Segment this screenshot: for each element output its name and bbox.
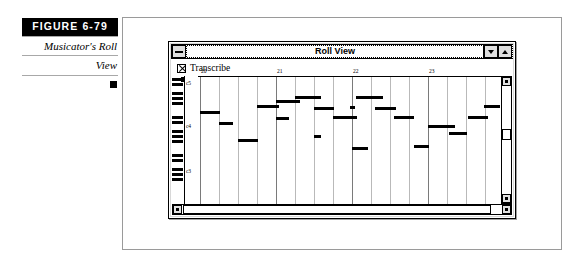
window-title-bar[interactable]: Roll View [171,44,513,59]
keyboard-position-marker [172,78,183,81]
arrow-right-icon [505,208,508,211]
measure-line [276,77,277,204]
maximize-button[interactable] [498,45,512,58]
note-bar[interactable] [414,145,429,148]
note-bar[interactable] [200,111,220,114]
note-bar[interactable] [219,122,233,125]
piano-keyboard-strip[interactable] [172,76,185,204]
measure-number-label: 21 [277,68,283,74]
beat-line [390,77,391,204]
vertical-scroll-thumb[interactable] [502,129,511,140]
note-bar[interactable] [428,125,455,128]
note-bar[interactable] [356,96,383,99]
beat-line [466,77,467,204]
octave-label: c4 [186,123,191,129]
piano-black-key[interactable] [172,135,183,138]
figure-frame: Roll View Transcribe 20212223 [122,17,562,250]
scroll-down-button[interactable] [502,194,511,203]
note-bar[interactable] [449,132,467,135]
note-bar[interactable] [314,135,321,138]
beat-line [219,77,220,204]
caption-line-2: View [22,56,118,75]
scroll-left-button[interactable] [173,205,182,214]
minimize-button[interactable] [484,45,498,58]
horizontal-scroll-thumb[interactable] [183,205,491,214]
beat-line [333,77,334,204]
piano-black-key[interactable] [172,130,183,133]
beat-line [409,77,410,204]
piano-black-key[interactable] [172,97,183,100]
measure-number-label: 22 [353,68,359,74]
note-bar[interactable] [295,96,321,99]
window-title: Roll View [187,46,483,57]
note-bar[interactable] [257,105,279,108]
transcribe-label: Transcribe [190,63,230,73]
piano-black-key[interactable] [172,102,183,105]
scroll-up-button[interactable] [502,77,511,86]
roll-view-window: Roll View Transcribe 20212223 [168,41,516,219]
piano-black-key[interactable] [172,121,183,124]
arrow-up-icon [505,80,508,83]
figure-caption-block: FIGURE 6-79 Musicator's Roll View [22,18,118,88]
x-checkbox-icon[interactable] [177,64,186,73]
measure-line [352,77,353,204]
note-bar[interactable] [394,116,414,119]
piano-black-key[interactable] [172,83,183,86]
octave-label: c3 [186,168,191,174]
measure-line [428,77,429,204]
piano-black-key[interactable] [172,173,183,176]
note-bar[interactable] [276,100,300,103]
note-bar[interactable] [333,116,357,119]
beat-line [447,77,448,204]
title-center-wrap: Roll View [186,46,484,57]
arrow-down-icon [505,197,508,200]
note-bar[interactable] [484,105,500,108]
piano-black-key[interactable] [172,178,183,181]
scroll-right-button[interactable] [502,205,511,214]
triangle-up-icon [502,50,508,54]
note-bar[interactable] [375,107,396,110]
measure-line [200,77,201,204]
piano-black-key[interactable] [172,154,183,157]
note-bar[interactable] [350,106,355,109]
note-bar[interactable] [314,107,334,110]
figure-number-tag: FIGURE 6-79 [22,18,118,36]
piano-black-key[interactable] [172,140,183,143]
piano-black-key[interactable] [172,168,183,171]
piano-black-key[interactable] [172,116,183,119]
horizontal-scrollbar[interactable] [172,204,512,215]
note-bar[interactable] [352,147,368,150]
piano-roll-canvas[interactable]: 20212223 [198,76,501,204]
caption-end-marker [110,81,117,88]
arrow-left-icon [176,208,179,211]
caption-divider-bottom [22,75,118,76]
note-bar[interactable] [276,117,289,120]
window-client-area: 20212223 c5c4c3 [172,76,512,215]
note-bar[interactable] [468,116,488,119]
note-bar[interactable] [238,139,258,142]
octave-label: c5 [186,80,191,86]
measure-number-label: 23 [429,68,435,74]
beat-line [485,77,486,204]
system-menu-icon[interactable] [172,45,186,58]
triangle-down-icon [488,50,494,54]
piano-black-key[interactable] [172,159,183,162]
vertical-scrollbar[interactable] [501,76,512,204]
measure-number-label: 20 [201,68,207,74]
piano-black-key[interactable] [172,92,183,95]
caption-line-1: Musicator's Roll [22,37,118,56]
